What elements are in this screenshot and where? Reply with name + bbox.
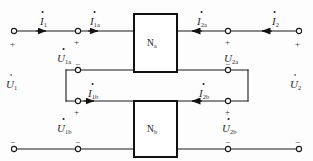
- current-label-i1b: I1b: [88, 84, 98, 101]
- block-label-nb: Nb: [147, 125, 157, 135]
- polarity-u2b-top: +: [225, 108, 230, 117]
- current-label-i1: I1: [40, 12, 47, 29]
- voltage-label-u1b: U1b: [57, 119, 71, 136]
- polarity-u1b-bottom: −: [75, 138, 80, 147]
- block-label-na: Na: [147, 39, 157, 49]
- terminal-output-bottom: [296, 146, 301, 151]
- polarity-left-top: +: [10, 40, 15, 49]
- terminal-nb-out-top: [225, 98, 230, 103]
- voltage-label-u1a: U1a: [57, 49, 71, 66]
- polarity-right-bottom: −: [295, 138, 300, 147]
- terminal-nb-in-bottom: [75, 146, 80, 151]
- voltage-label-u1: U1: [6, 75, 17, 92]
- polarity-u1a-top: +: [74, 38, 79, 47]
- terminal-input-bottom: [11, 146, 16, 151]
- terminal-nb-in-top: [75, 98, 80, 103]
- terminal-na-out-top: [225, 28, 230, 33]
- voltage-label-u2b: U2b: [222, 119, 236, 136]
- polarity-u1b-top: +: [74, 108, 79, 117]
- current-label-i2: I2: [272, 12, 279, 29]
- terminal-nb-out-bottom: [225, 146, 230, 151]
- terminal-na-in-top: [75, 28, 80, 33]
- current-label-i1a: I1a: [90, 12, 100, 29]
- circuit-diagram: Na Nb I1 I1a I2a I2 I1b I2b U1 U1a U2a U…: [0, 0, 313, 161]
- polarity-left-bottom: −: [10, 138, 15, 147]
- voltage-label-u2: U2: [290, 75, 301, 92]
- polarity-right-top: +: [295, 40, 300, 49]
- current-label-i2b: I2b: [199, 84, 209, 101]
- polarity-u2a-top: +: [225, 38, 230, 47]
- polarity-u1a-bottom: −: [75, 60, 80, 69]
- terminal-input-top: [11, 28, 16, 33]
- polarity-u2a-bottom: −: [225, 60, 230, 69]
- terminal-output-top: [296, 28, 301, 33]
- polarity-u2b-bottom: −: [225, 138, 230, 147]
- current-label-i2a: I2a: [197, 12, 207, 29]
